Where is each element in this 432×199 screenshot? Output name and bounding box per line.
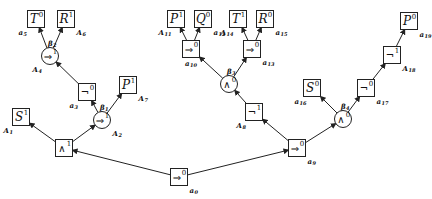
node-beta-subscript: 3 [232, 70, 236, 76]
node-symbol: R [257, 12, 267, 26]
node-symbol: S [15, 110, 23, 124]
edge-n12-n14 [194, 28, 199, 41]
edge-n3-n5 [107, 94, 122, 114]
node-label-subscript: 13 [268, 61, 275, 67]
edges-layer [30, 28, 405, 175]
node-polarity: 0 [346, 111, 350, 119]
node-label: A11 [158, 28, 172, 38]
node-n1: ∧1 [56, 140, 73, 157]
node-label: A14 [220, 28, 234, 38]
node-n4: ¬0a3 [70, 84, 96, 111]
node-label-subscript: 17 [382, 100, 389, 106]
node-n22: P0a19 [401, 13, 432, 40]
edge-n4-n6 [56, 62, 78, 84]
node-beta-subscript: 1 [105, 106, 108, 112]
node-symbol: ∧ [58, 143, 65, 154]
node-n19: S0a16 [295, 80, 321, 107]
node-symbol: P [402, 14, 412, 28]
node-label: a15 [276, 28, 289, 38]
edge-n0-n9 [188, 150, 289, 175]
edge-n9-n18 [306, 124, 336, 143]
node-symbol: ⇒ [96, 115, 104, 126]
node-symbol: R [58, 12, 68, 26]
node-polarity: 0 [369, 80, 373, 88]
node-polarity: 1 [105, 112, 109, 120]
node-label: A6 [76, 28, 87, 38]
node-label-subscript: 4 [38, 68, 42, 74]
edge-n1-n3 [73, 125, 96, 142]
node-label-subscript: 1 [9, 129, 12, 135]
node-label-subscript: 3 [75, 104, 79, 110]
node-label: a9 [308, 157, 317, 167]
node-polarity: 0 [206, 11, 210, 19]
node-symbol: P [121, 78, 131, 92]
node-polarity: 0 [412, 13, 416, 21]
node-label-subscript: 8 [242, 124, 246, 130]
node-label: A7 [138, 94, 149, 104]
node-n8: R1A6 [58, 11, 87, 38]
node-label-subscript: 19 [425, 33, 432, 39]
node-polarity: 1 [179, 11, 183, 19]
node-polarity: 0 [182, 169, 186, 177]
node-polarity: 0 [90, 84, 94, 92]
edge-n18-n20 [348, 97, 360, 113]
edge-n10-n11 [235, 90, 247, 103]
node-label: A18 [402, 64, 416, 74]
edge-n12-n13 [180, 28, 187, 41]
node-label-subscript: 10 [190, 62, 197, 68]
edge-n11-n12 [200, 57, 223, 78]
edge-n0-n1 [73, 150, 171, 175]
node-polarity: 1 [131, 77, 135, 85]
node-n21: ¬1A18 [384, 47, 416, 74]
node-label-subscript: 16 [300, 100, 307, 106]
node-polarity: 1 [241, 11, 245, 19]
edge-n15-n17 [256, 28, 262, 41]
node-symbol: ∧ [337, 114, 344, 125]
node-label-subscript: 11 [164, 31, 171, 37]
node-label: a5 [19, 28, 28, 38]
node-symbol: ∧ [223, 79, 230, 90]
node-label-subscript: 6 [82, 31, 86, 37]
node-polarity: 0 [232, 76, 236, 84]
node-polarity: 1 [69, 11, 73, 19]
node-n18: ∧0β4 [335, 102, 352, 128]
node-n15: ⇒0a13 [244, 41, 276, 68]
node-n10: ¬1A8 [236, 104, 263, 131]
edge-n18-n19 [321, 97, 337, 113]
node-label-subscript: 18 [408, 67, 415, 73]
node-label-subscript: 5 [24, 31, 28, 37]
node-polarity: 0 [315, 80, 319, 88]
edge-n15-n16 [242, 28, 248, 41]
edge-n20-n21 [373, 64, 386, 80]
node-beta-subscript: 4 [346, 105, 350, 111]
node-label-subscript: 9 [313, 160, 317, 166]
node-symbol: ⇒ [185, 44, 193, 55]
edge-n9-n10 [263, 119, 289, 141]
edge-n6-n7 [39, 28, 47, 49]
node-n11: ∧0β3 [221, 67, 238, 93]
node-polarity: 0 [268, 11, 272, 19]
node-symbol: ¬ [360, 83, 368, 94]
node-label-subscript: 2 [117, 132, 122, 138]
node-beta-subscript: 2 [52, 42, 57, 48]
node-polarity: 0 [39, 11, 43, 19]
node-n20: ¬0a17 [358, 80, 390, 107]
node-symbol: Q [196, 12, 206, 26]
node-symbol: T [30, 12, 39, 26]
node-polarity: 1 [395, 47, 399, 55]
node-beta-label: β2 [47, 39, 57, 49]
node-polarity: 1 [67, 140, 71, 148]
node-polarity: 0 [300, 140, 304, 148]
edge-n11-n15 [234, 58, 247, 77]
node-symbol: ⇒ [246, 44, 254, 55]
node-label: A1 [3, 126, 13, 136]
node-symbol: P [169, 12, 179, 26]
node-polarity: 0 [194, 41, 198, 49]
node-label: a0 [190, 186, 199, 196]
node-symbol: S [306, 81, 314, 95]
node-n17: R0a15 [257, 11, 289, 38]
node-beta-label: β3 [226, 67, 236, 77]
edge-n3-n4 [92, 101, 98, 113]
node-n0: ⇒0a0 [171, 169, 199, 196]
node-beta-label: β1 [99, 103, 108, 113]
